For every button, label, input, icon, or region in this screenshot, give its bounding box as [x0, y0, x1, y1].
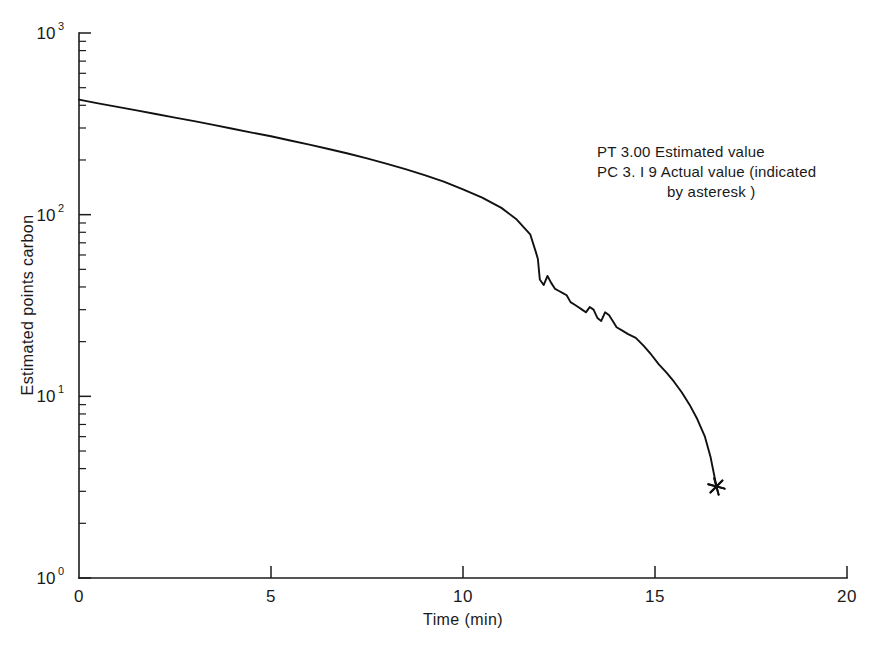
axes — [79, 33, 847, 578]
x-axis-title: Time (min) — [423, 611, 503, 628]
y-decade-base-3: 10 — [37, 24, 56, 43]
y-decade-exponent-0: 0 — [58, 565, 64, 577]
x-axis-tick-labels: 05101520 — [74, 587, 857, 606]
x-tick-label-10: 10 — [453, 587, 473, 606]
x-axis-ticks — [271, 566, 655, 578]
y-decade-exponent-2: 2 — [58, 202, 64, 214]
annotation-line-3: by asteresk ) — [667, 183, 755, 200]
figure-container: 05101520 100101102103 Time (min) Estimat… — [0, 0, 896, 652]
log-line-chart: 05101520 100101102103 Time (min) Estimat… — [0, 0, 896, 652]
y-decade-exponent-3: 3 — [58, 20, 64, 32]
x-tick-label-5: 5 — [266, 587, 276, 606]
asterisk-marker — [708, 478, 724, 494]
x-tick-label-15: 15 — [645, 587, 665, 606]
x-tick-label-20: 20 — [837, 587, 857, 606]
y-axis-minor-ticks — [79, 41, 86, 523]
annotation-line-1: PT 3.00 Estimated value — [597, 143, 765, 160]
y-axis-decade-labels: 100101102103 — [37, 20, 65, 588]
y-axis-title: Estimated points carbon — [19, 215, 36, 396]
annotation-line-2: PC 3. I 9 Actual value (indicated — [597, 163, 816, 180]
y-decade-base-1: 10 — [37, 387, 56, 406]
y-decade-base-0: 10 — [37, 569, 56, 588]
y-decade-exponent-1: 1 — [58, 383, 64, 395]
y-decade-base-2: 10 — [37, 206, 56, 225]
x-tick-label-0: 0 — [74, 587, 84, 606]
